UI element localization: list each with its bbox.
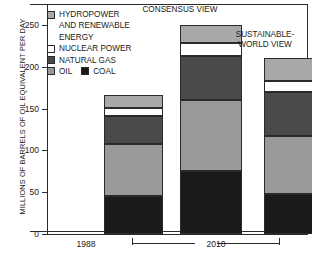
legend-swatch-coal <box>81 67 89 75</box>
segment-hydropower-and-renewable-energy <box>104 95 163 108</box>
legend-swatch-natural-gas <box>47 56 55 64</box>
legend-label-natural-gas: NATURAL GAS <box>59 55 116 66</box>
y-tick-label-150: 150 <box>13 105 39 113</box>
chart-legend: HYDROPOWER AND RENEWABLE ENERGY NUCLEAR … <box>47 9 177 77</box>
segment-oil <box>264 136 312 194</box>
y-tick-label-50: 50 <box>13 188 39 196</box>
legend-item-hydropower: HYDROPOWER <box>47 9 177 20</box>
chart-root: MILLIONS OF BARRELS OF OIL EQUIVALENT PE… <box>0 0 312 257</box>
y-tick-label-250: 250 <box>13 21 39 29</box>
x-label-1988: 1988 <box>56 239 116 249</box>
y-tick-0 <box>42 234 47 235</box>
segment-natural-gas <box>264 92 312 136</box>
segment-natural-gas <box>180 56 242 100</box>
legend-item-oil-coal: OIL COAL <box>47 66 177 77</box>
legend-label-nuclear: NUCLEAR POWER <box>59 43 131 54</box>
x-label-2010: 2010 <box>196 239 236 249</box>
y-tick-label-0: 0 <box>13 230 39 238</box>
legend-label-coal: COAL <box>93 66 115 77</box>
segment-coal <box>180 171 242 234</box>
legend-item-nuclear: NUCLEAR POWER <box>47 43 177 54</box>
legend-label-oil: OIL <box>59 66 72 77</box>
x-axis-line <box>47 234 308 235</box>
segment-nuclear-power <box>104 108 163 116</box>
legend-item-natural-gas: NATURAL GAS <box>47 55 177 66</box>
segment-nuclear-power <box>264 81 312 92</box>
segment-coal <box>104 196 163 234</box>
legend-swatch-oil <box>47 67 55 75</box>
y-tick-label-200: 200 <box>13 63 39 71</box>
legend-swatch-hydropower <box>47 11 55 19</box>
segment-oil <box>104 144 163 197</box>
segment-natural-gas <box>104 116 163 144</box>
bar-title-sustainable: SUSTAINABLE- WORLD VIEW <box>221 30 309 49</box>
y-tick-label-100: 100 <box>13 146 39 154</box>
segment-oil <box>180 100 242 171</box>
segment-coal <box>264 194 312 234</box>
segment-hydropower-and-renewable-energy <box>264 58 312 81</box>
legend-label-hydropower-line2: AND RENEWABLE <box>47 20 177 31</box>
legend-swatch-nuclear <box>47 45 55 53</box>
legend-label-hydropower: HYDROPOWER <box>59 9 120 20</box>
legend-label-hydropower-line3: ENERGY <box>47 32 177 43</box>
